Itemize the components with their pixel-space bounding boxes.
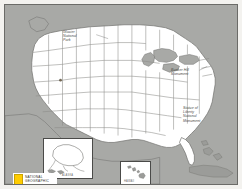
label-glacier-national-park: Glacier National Park [63, 30, 97, 43]
inset-hawaii-label: HAWAII [124, 180, 134, 183]
inset-alaska-label: ALASKA [62, 174, 73, 177]
label-bunker-hill-monument: Bunker Hill Monument [171, 68, 211, 76]
national-geographic-logo: NATIONAL GEOGRAPHIC [13, 173, 57, 185]
map-figure: Glacier National Park Bunker Hill Monume… [0, 0, 242, 189]
natgeo-wordmark: NATIONAL GEOGRAPHIC [25, 175, 49, 183]
natgeo-yellow-rectangle-icon [14, 174, 23, 185]
natgeo-wordmark-line2: GEOGRAPHIC [25, 179, 49, 183]
us-map-graphic [5, 5, 237, 184]
map-frame: Glacier National Park Bunker Hill Monume… [4, 4, 238, 185]
site-marker-utah [59, 79, 61, 81]
label-statue-of-liberty-national-monument: Statue of Liberty National Monument [183, 106, 227, 123]
inset-hawaii: HAWAII [120, 161, 151, 185]
